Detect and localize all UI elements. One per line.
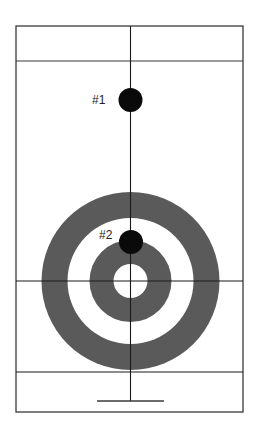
stone-2-label: #2 [99, 228, 113, 242]
stone-1: #1 [92, 88, 143, 112]
curling-sheet-diagram: #1 #2 [0, 0, 257, 434]
stone-1-icon [119, 88, 143, 112]
stone-2-icon [119, 230, 143, 254]
stone-1-label: #1 [92, 93, 106, 107]
